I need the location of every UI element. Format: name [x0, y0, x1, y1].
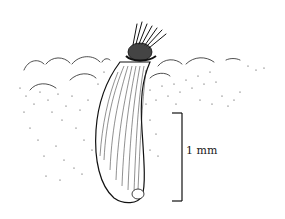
seed-illustration: 1 mm — [0, 0, 285, 219]
scale-bar-label: 1 mm — [186, 145, 217, 156]
scale-bar — [172, 113, 182, 201]
seed-body — [96, 62, 150, 203]
illustration-drawing — [0, 0, 285, 219]
bristle-tuft — [126, 22, 166, 61]
seed-tip — [132, 189, 144, 199]
